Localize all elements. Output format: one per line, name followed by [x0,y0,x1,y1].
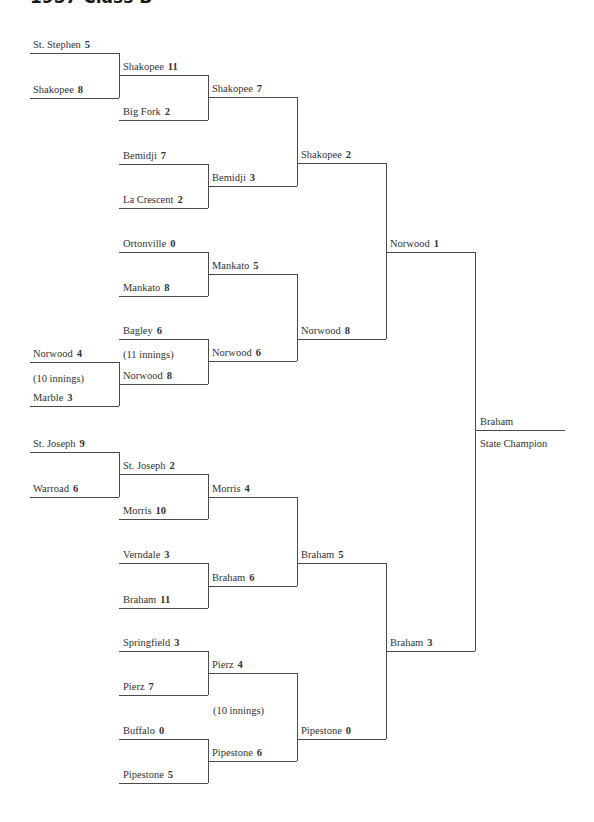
team-score: 5 [168,769,173,780]
team-entry: Ortonville0 [123,237,175,250]
bracket-line [30,497,119,498]
team-name: Buffalo [123,725,155,736]
team-entry: Norwood6 [212,346,261,359]
game-note: (10 innings) [33,372,84,385]
team-score: 6 [157,325,162,336]
team-score: 8 [345,325,350,336]
bracket-line [297,97,298,186]
team-entry: Warroad6 [33,482,78,495]
team-score: 3 [174,637,179,648]
team-name: St. Joseph [33,438,76,449]
team-entry: Norwood8 [123,369,172,382]
bracket-line [297,274,298,361]
bracket-line [297,163,386,164]
team-entry: Shakopee2 [301,148,351,161]
team-score: 11 [168,61,178,72]
bracket-line [119,339,208,340]
team-score: 7 [149,681,154,692]
team-score: 11 [160,594,170,605]
bracket-line [119,563,208,564]
team-name: Braham [212,572,245,583]
team-name: Big Fork [123,106,161,117]
bracket-line [119,519,208,520]
bracket-line [208,673,297,674]
team-name: Bagley [123,325,153,336]
team-name: Springfield [123,637,170,648]
team-entry: St. Joseph2 [123,459,175,472]
team-name: Norwood [123,370,163,381]
team-entry: Bemidji3 [212,171,255,184]
team-score: 8 [164,282,169,293]
team-name: Norwood [301,325,341,336]
team-name: Bemidji [212,172,246,183]
team-score: 5 [85,39,90,50]
bracket-line [208,186,297,187]
bracket-line [297,673,298,761]
bracket-line [386,252,475,253]
team-name: Pipestone [301,725,342,736]
team-score: 8 [167,370,172,381]
bracket-line [119,783,208,784]
bracket-line [208,274,297,275]
bracket-line [119,739,208,740]
bracket-line [119,296,208,297]
team-score: 3 [67,392,72,403]
bracket-line [119,695,208,696]
team-name: Warroad [33,483,69,494]
team-name: Morris [212,483,241,494]
team-name: Bemidji [123,150,157,161]
bracket-line [208,586,297,587]
team-entry: Pipestone6 [212,746,262,759]
team-score: 3 [164,549,169,560]
bracket-line [30,53,119,54]
bracket-line [119,608,208,609]
bracket-line [208,97,297,98]
bracket-line [119,164,208,165]
team-entry: Pipestone5 [123,768,173,781]
team-entry: Morris10 [123,504,166,517]
bracket-line [297,339,386,340]
team-entry: Shakopee11 [123,60,178,73]
team-entry: St. Stephen5 [33,38,90,51]
bracket-line [208,761,297,762]
bracket-line [297,739,386,740]
bracket-line [119,474,208,475]
bracket-line [208,497,297,498]
bracket-line [119,120,208,121]
champion-team: Braham [480,415,513,428]
team-name: Mankato [212,260,249,271]
bracket-line [30,362,119,363]
team-entry: Braham6 [212,571,255,584]
team-entry: Bagley6 [123,324,162,337]
team-entry: Mankato5 [212,259,259,272]
bracket-line [30,452,119,453]
team-entry: Morris4 [212,482,250,495]
team-score: 4 [77,348,82,359]
team-entry: Pierz7 [123,680,154,693]
team-name: St. Stephen [33,39,81,50]
team-entry: Mankato8 [123,281,170,294]
team-name: Norwood [390,238,430,249]
champion-line [475,430,565,431]
team-score: 6 [73,483,78,494]
team-score: 10 [156,505,167,516]
team-entry: Shakopee8 [33,83,83,96]
team-score: 0 [346,725,351,736]
team-score: 7 [257,83,262,94]
team-entry: Norwood8 [301,324,350,337]
team-score: 3 [250,172,255,183]
team-entry: Norwood1 [390,237,439,250]
team-name: Shakopee [33,84,74,95]
team-name: Morris [123,505,152,516]
team-name: La Crescent [123,194,173,205]
bracket-line [119,75,208,76]
team-entry: Big Fork2 [123,105,170,118]
team-name: Marble [33,392,63,403]
team-score: 0 [170,238,175,249]
team-entry: Marble3 [33,391,73,404]
team-entry: Braham5 [301,548,344,561]
team-score: 6 [256,347,261,358]
bracket-line [119,252,208,253]
team-entry: Buffalo0 [123,724,164,737]
bracket-line [386,163,387,339]
